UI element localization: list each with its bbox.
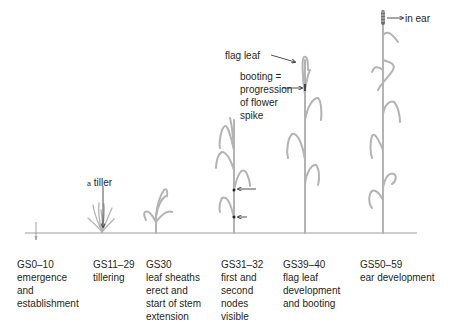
in-ear-label: in ear: [405, 12, 430, 25]
plant-gs11-29: [88, 203, 114, 232]
stage-label-gs30: GS30 leaf sheaths erect and start of ste…: [146, 258, 201, 323]
node-1: [233, 189, 236, 192]
stage-code: GS11–29: [93, 258, 135, 271]
plant-gs0-10: [35, 222, 37, 240]
stage-code: GS39–40: [283, 258, 340, 271]
booting-label: booting = progression of flower spike: [240, 70, 292, 122]
plant-gs50-59: [369, 18, 400, 233]
stage-label-gs50-59: GS50–59 ear development: [360, 258, 435, 284]
stage-code: GS31–32: [221, 258, 263, 271]
plant-gs31-32: [216, 118, 250, 233]
plant-gs30: [144, 189, 172, 233]
node-2: [233, 216, 236, 219]
flag-leaf-arrow: [271, 55, 295, 62]
stage-label-gs31-32: GS31–32 first and second nodes visible: [221, 258, 263, 323]
plant-gs39-40: [287, 57, 321, 233]
stage-code: GS30: [146, 258, 201, 271]
stage-label-gs0-10: GS0–10 emergence and establishment: [17, 258, 79, 310]
flag-leaf-label: flag leaf: [225, 49, 260, 62]
stage-label-gs11-29: GS11–29 tillering: [93, 258, 135, 284]
ear-icon: [381, 10, 385, 25]
tiller-label: a tiller: [87, 176, 112, 190]
stage-label-gs39-40: GS39–40 flag leaf development and bootin…: [283, 258, 340, 310]
stage-code: GS0–10: [17, 258, 79, 271]
stage-code: GS50–59: [360, 258, 435, 271]
